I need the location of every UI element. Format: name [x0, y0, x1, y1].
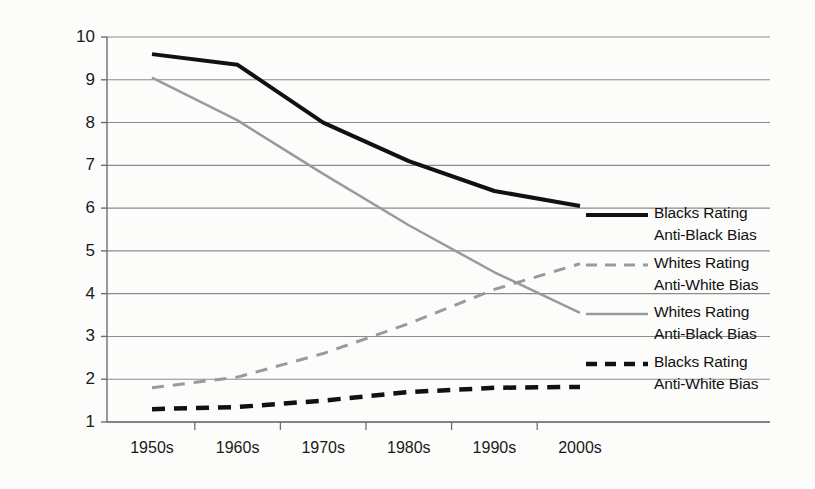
plot-area — [0, 0, 815, 489]
series-line-0 — [152, 54, 580, 206]
legend-label-line2-0: Anti-Black Bias — [654, 226, 757, 244]
legend-label-line2-3: Anti-White Bias — [654, 375, 758, 393]
legend-label-line2-1: Anti-White Bias — [654, 276, 758, 294]
legend-line-sample-3 — [586, 356, 648, 368]
legend-line-sample-1 — [586, 257, 648, 269]
legend-label-line1-0: Blacks Rating — [654, 204, 747, 222]
legend-line-sample-2 — [586, 306, 648, 318]
legend-line-sample-0 — [586, 207, 648, 219]
series-line-3 — [152, 387, 580, 409]
legend-label-line2-2: Anti-Black Bias — [654, 325, 757, 343]
legend-label-line1-2: Whites Rating — [654, 303, 749, 321]
legend-label-line1-3: Blacks Rating — [654, 353, 747, 371]
legend-label-line1-1: Whites Rating — [654, 254, 749, 272]
chart-figure: 12345678910 1950s1960s1970s1980s1990s200… — [0, 0, 815, 489]
